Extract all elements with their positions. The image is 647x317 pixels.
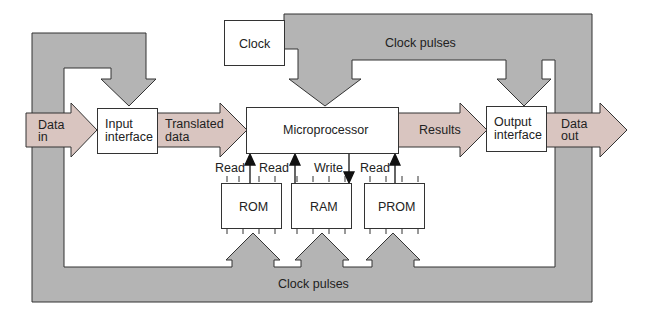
ram-write-label: Write: [314, 162, 343, 175]
microprocessor-block: Microprocessor: [246, 107, 399, 154]
output-interface-block: Output interface: [486, 106, 547, 152]
clock-label: Clock: [239, 38, 270, 51]
clock-pulses-top-label: Clock pulses: [385, 37, 456, 50]
clock-block: Clock: [224, 20, 285, 66]
results-label: Results: [419, 124, 461, 137]
microprocessor-system-diagram: Clock Input interface Microprocessor Out…: [0, 0, 647, 317]
input-interface-label-2: interface: [105, 131, 153, 144]
rom-chip: ROM: [221, 183, 282, 229]
ram-label: RAM: [310, 201, 338, 214]
rom-label: ROM: [239, 201, 268, 214]
prom-chip: PROM: [364, 183, 425, 229]
diagram-shapes: [0, 0, 647, 317]
ram-chip: RAM: [291, 183, 352, 229]
rom-read-label: Read: [215, 162, 245, 175]
prom-read-label: Read: [360, 162, 390, 175]
ram-read-label: Read: [259, 162, 289, 175]
output-interface-label-2: interface: [494, 129, 542, 142]
data-in-label-2: in: [38, 131, 48, 144]
input-interface-block: Input interface: [97, 108, 158, 154]
prom-label: PROM: [378, 201, 416, 214]
translated-data-label-2: data: [165, 131, 189, 144]
clock-pulse-bus: [32, 14, 592, 302]
data-out-label-2: out: [561, 130, 578, 143]
microprocessor-label: Microprocessor: [283, 124, 368, 137]
clock-pulses-bottom-label: Clock pulses: [278, 278, 349, 291]
